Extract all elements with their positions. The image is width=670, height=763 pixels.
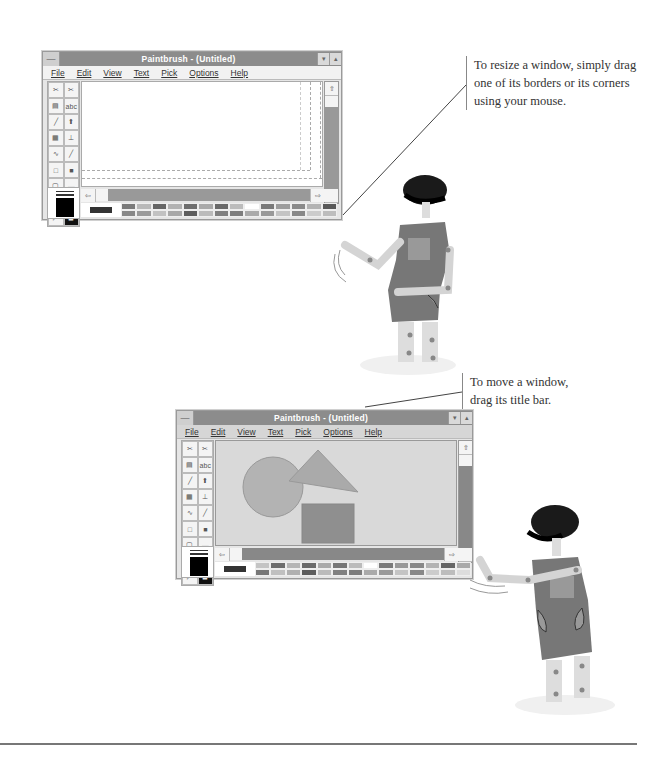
eraser-icon[interactable]: ⬆ (198, 473, 214, 489)
palette-swatch[interactable] (425, 562, 440, 569)
palette-swatch[interactable] (409, 569, 424, 576)
arrow-right-icon: ⇨ (449, 551, 455, 559)
text-tool-icon[interactable]: abc (198, 457, 214, 473)
filled-box-icon[interactable]: ■ (198, 521, 214, 537)
palette-swatch[interactable] (332, 562, 347, 569)
palette-swatch[interactable] (363, 569, 378, 576)
palette-swatch[interactable] (348, 562, 363, 569)
arrow-left-icon: ⇦ (219, 551, 225, 559)
menu-bar: File Edit View Text Pick Options Help (177, 425, 472, 439)
arrow-up-icon: ⇧ (463, 444, 469, 452)
system-menu-button[interactable]: — (177, 411, 194, 425)
menu-pick[interactable]: Pick (295, 427, 311, 437)
scroll-left-button[interactable]: ⇦ (215, 548, 230, 561)
line-width-selector[interactable] (181, 546, 214, 578)
horizontal-rule (0, 743, 637, 745)
menu-view[interactable]: View (237, 427, 255, 437)
maximize-icon: ▴ (465, 414, 469, 422)
line-icon[interactable]: ╱ (198, 505, 214, 521)
drawing-canvas[interactable] (215, 440, 457, 546)
color-palette[interactable] (255, 562, 471, 576)
menu-help[interactable]: Help (365, 427, 382, 437)
palette-swatch[interactable] (440, 562, 455, 569)
menu-text[interactable]: Text (268, 427, 284, 437)
palette-swatch[interactable] (332, 569, 347, 576)
menu-edit[interactable]: Edit (211, 427, 226, 437)
color-eraser-icon[interactable]: ╱ (182, 473, 198, 489)
brush-icon[interactable]: ⊥ (198, 489, 214, 505)
palette-swatch[interactable] (286, 569, 301, 576)
menu-options[interactable]: Options (323, 427, 352, 437)
maximize-button[interactable]: ▴ (460, 412, 472, 424)
minimize-button[interactable]: ▾ (448, 412, 460, 424)
palette-swatch[interactable] (409, 562, 424, 569)
palette-swatch[interactable] (286, 562, 301, 569)
paintbrush-window-bottom[interactable]: — Paintbrush - (Untitled) ▾ ▴ File Edit … (176, 410, 473, 579)
menu-file[interactable]: File (185, 427, 199, 437)
curve-icon[interactable]: ∿ (182, 505, 198, 521)
title-bar[interactable]: — Paintbrush - (Untitled) ▾ ▴ (177, 411, 472, 425)
palette-swatch[interactable] (317, 569, 332, 576)
caption-move: To move a window, drag its title bar. (462, 373, 590, 409)
palette-swatch[interactable] (255, 562, 270, 569)
pick-scissors-icon[interactable]: ✂ (198, 441, 214, 457)
palette-swatch[interactable] (456, 562, 471, 569)
palette-swatch[interactable] (301, 569, 316, 576)
palette-swatch[interactable] (378, 569, 393, 576)
palette-swatch[interactable] (456, 569, 471, 576)
palette-swatch[interactable] (270, 562, 285, 569)
horizontal-scrollbar[interactable]: ⇦ ⇨ (215, 548, 471, 560)
palette-swatch[interactable] (301, 562, 316, 569)
palette-swatch[interactable] (394, 562, 409, 569)
scroll-up-button[interactable]: ⇧ (459, 441, 472, 455)
palette-swatch[interactable] (394, 569, 409, 576)
robot-figure-bottom (470, 480, 630, 720)
palette-swatch[interactable] (440, 569, 455, 576)
palette-swatch[interactable] (348, 569, 363, 576)
robot-figure-top (330, 150, 470, 380)
canvas-shapes (216, 441, 456, 545)
palette-swatch[interactable] (378, 562, 393, 569)
palette-swatch[interactable] (425, 569, 440, 576)
square-shape (302, 504, 354, 543)
current-color-box (215, 562, 255, 576)
window-title: Paintbrush - (Untitled) (194, 413, 448, 423)
palette-swatch[interactable] (255, 569, 270, 576)
minus-icon: — (181, 413, 190, 423)
scroll-right-button[interactable]: ⇨ (444, 548, 459, 561)
circle-shape (243, 457, 303, 517)
palette-swatch[interactable] (363, 562, 378, 569)
palette-swatch[interactable] (317, 562, 332, 569)
palette-swatch[interactable] (270, 569, 285, 576)
airbrush-icon[interactable]: ▤ (182, 457, 198, 473)
minimize-icon: ▾ (453, 414, 457, 422)
scissors-icon[interactable]: ✂ (182, 441, 198, 457)
box-icon[interactable]: □ (182, 521, 198, 537)
paint-roller-icon[interactable]: ▦ (182, 489, 198, 505)
